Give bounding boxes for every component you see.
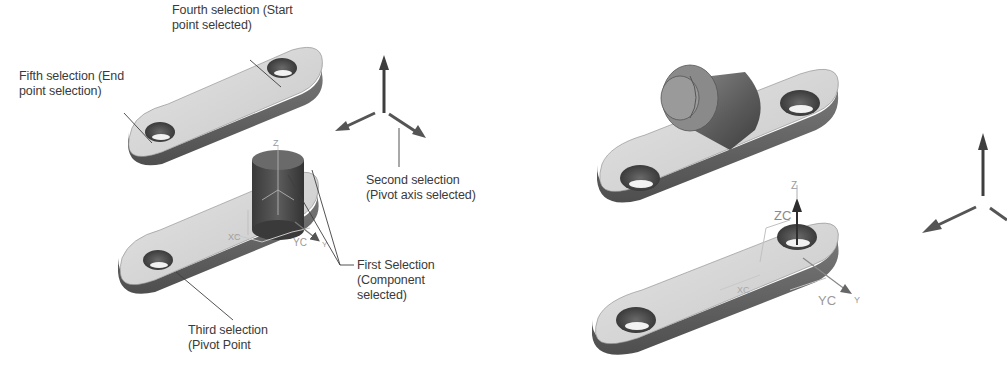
- yc-axis-label: YC: [293, 237, 307, 248]
- vector-triad-right: [922, 133, 1007, 233]
- callout-line: Second selection: [366, 173, 476, 188]
- left-arrow-icon-right[interactable]: [938, 207, 976, 225]
- callout-line: Fifth selection (End: [19, 69, 124, 84]
- callout-second-selection: Second selection (Pivot axis selected): [366, 173, 476, 203]
- lower-link-right: [592, 223, 839, 355]
- callout-line: (Component: [357, 273, 435, 288]
- right-arrow-icon-right[interactable]: [990, 208, 1007, 220]
- y-axis-label: Y: [322, 240, 328, 249]
- callout-line: First Selection: [357, 258, 435, 273]
- z-axis-label-right: Z: [791, 180, 797, 191]
- callout-line: selected): [357, 288, 435, 303]
- callout-third-selection: Third selection (Pivot Point: [188, 323, 268, 353]
- y-axis-label-right: Y: [854, 295, 860, 305]
- right-view: Z ZC XC YC Y: [592, 65, 1007, 355]
- zc-axis-label: ZC: [774, 208, 791, 223]
- yc-axis-label-right: YC: [818, 293, 836, 308]
- xc-axis-label: XC: [228, 232, 241, 242]
- callout-line: (Pivot axis selected): [366, 188, 476, 203]
- pivot-axis-arrow-icon[interactable]: [389, 114, 418, 133]
- z-axis-label: Z: [273, 138, 279, 148]
- callout-line: point selected): [172, 18, 293, 33]
- upper-link-left: [128, 47, 323, 165]
- callout-fourth-selection: Fourth selection (Start point selected): [172, 3, 293, 33]
- callout-line: Third selection: [188, 323, 268, 338]
- cad-diagram-canvas: Z XC YC Y: [0, 0, 1007, 376]
- left-arrow-icon[interactable]: [345, 113, 375, 127]
- xc-axis-label-right: XC: [737, 285, 750, 295]
- callout-fifth-selection: Fifth selection (End point selection): [19, 69, 124, 99]
- callout-line: Fourth selection (Start: [172, 3, 293, 18]
- callout-first-selection: First Selection (Component selected): [357, 258, 435, 303]
- callout-line: (Pivot Point: [188, 338, 268, 353]
- vector-triad-left: [335, 55, 426, 138]
- upper-link-right: [597, 65, 838, 203]
- callout-line: point selection): [19, 84, 124, 99]
